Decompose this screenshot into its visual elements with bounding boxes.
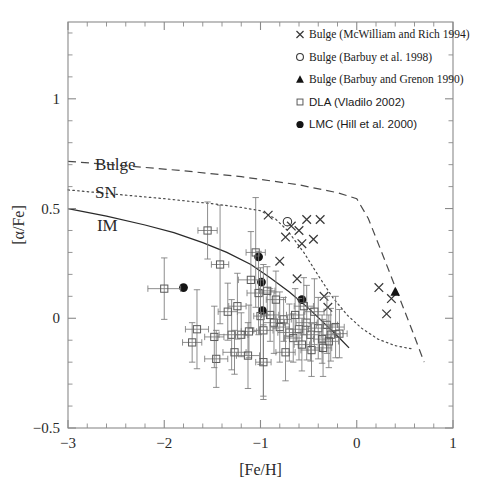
error-bar xyxy=(205,306,224,367)
marker-x xyxy=(309,235,318,244)
x-tick-label: −2 xyxy=(156,435,172,451)
legend: Bulge (McWilliam and Rich 1994)Bulge (Ba… xyxy=(296,28,470,130)
marker-x xyxy=(264,211,273,220)
y-tick-label: 0.5 xyxy=(41,201,60,217)
series-lmc xyxy=(179,252,306,315)
marker-x xyxy=(293,274,302,283)
curve-label-group: BulgeSNIM xyxy=(95,155,136,235)
series-dla xyxy=(148,198,347,400)
marker-x xyxy=(375,283,384,292)
curve-label-sn: SN xyxy=(95,183,117,202)
marker-x xyxy=(302,215,311,224)
x-axis-label: [Fe/H] xyxy=(239,461,282,478)
marker-circle-filled xyxy=(296,121,303,128)
error-bar xyxy=(198,202,217,259)
alpha-fe-vs-fe-h-scatter-plot: −3−2−101−0.500.51[Fe/H][α/Fe] BulgeSNIM … xyxy=(0,0,495,498)
legend-item-label: Bulge (Barbuy et al. 1998) xyxy=(309,51,432,64)
marker-circle-filled xyxy=(258,306,267,315)
marker-x xyxy=(298,239,307,248)
y-tick-label: 1 xyxy=(53,91,61,107)
error-bar xyxy=(289,299,308,360)
marker-triangle-filled xyxy=(390,287,400,296)
error-bar xyxy=(256,325,271,400)
marker-x xyxy=(316,215,325,224)
figure-root: −3−2−101−0.500.51[Fe/H][α/Fe] BulgeSNIM … xyxy=(0,0,495,498)
error-bar xyxy=(236,323,259,389)
marker-x xyxy=(281,233,290,242)
x-tick-label: 1 xyxy=(449,435,457,451)
marker-x xyxy=(295,226,304,235)
legend-item-label: DLA (Vladilo 2002) xyxy=(309,96,405,108)
x-tick-label: 0 xyxy=(353,435,361,451)
marker-triangle-filled xyxy=(296,75,304,82)
marker-circle-open xyxy=(297,54,304,61)
curve-label-im: IM xyxy=(97,216,118,235)
y-tick-label: −0.5 xyxy=(33,420,60,436)
model-curve-sn xyxy=(68,190,413,349)
y-axis-label: [α/Fe] xyxy=(10,205,27,244)
marker-x xyxy=(296,31,303,38)
error-bar xyxy=(332,309,347,357)
marker-x xyxy=(275,257,284,266)
marker-square-open xyxy=(297,99,303,105)
legend-item-label: Bulge (McWilliam and Rich 1994) xyxy=(309,28,470,41)
y-tick-label: 0 xyxy=(53,310,61,326)
data-point-group xyxy=(148,198,400,400)
curve-label-bulge: Bulge xyxy=(95,155,136,174)
model-curve-group xyxy=(68,161,424,362)
series-bulge xyxy=(390,287,400,296)
axis-label-group: −3−2−101−0.500.51[Fe/H][α/Fe] xyxy=(10,91,457,478)
x-tick-label: −1 xyxy=(253,435,269,451)
legend-item-label: Bulge (Barbuy and Grenon 1990) xyxy=(309,73,464,86)
legend-item-label: LMC (Hill et al. 2000) xyxy=(309,118,417,130)
x-tick-label: −3 xyxy=(60,435,76,451)
error-bar xyxy=(148,258,181,319)
marker-x xyxy=(382,310,391,319)
